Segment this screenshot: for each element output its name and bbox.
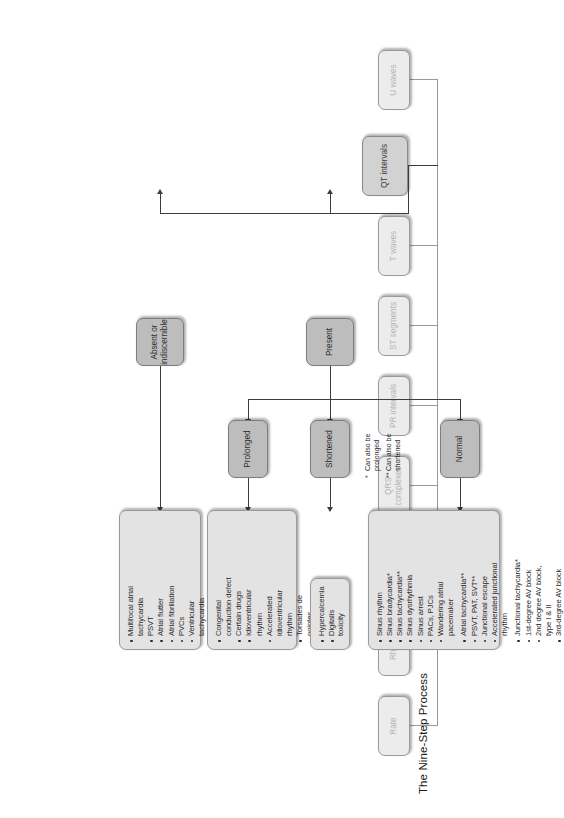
list-item: Atrial fibrillation [168,519,177,643]
qt-split-bar-h [408,165,409,214]
branch-label-normal: Normal [455,436,465,462]
list-item: Junctional tachycardia* [514,519,523,643]
branch-node-prolonged[interactable]: Prolonged [228,420,268,478]
list-item-continuation: rhythm [286,519,295,643]
list-item: Torsades de [296,519,305,643]
list-item: 1st-degree AV block [525,519,534,643]
absent-arrowhead-icon [157,189,163,194]
list-item: Sinus arrest [417,519,426,643]
list-item: 3rd-degree AV block [555,519,564,643]
list-item: Accelerated junctional [491,519,500,643]
list-item: Accelerated [266,519,275,643]
list-item-continuation: type I & II [545,519,554,643]
list-item-continuation: tachycardia [137,519,146,643]
shortened-to-panel-line [330,478,331,508]
footnote-mark: ** [385,473,394,478]
list-item: Sinus rhythm [376,519,385,643]
branch-node-normal[interactable]: Normal [440,420,480,478]
list-shortened: Hypercalcemia Digitalis toxicity [318,587,346,643]
list-item: Sinus dysrhythmia [406,519,415,643]
riser-pr-intervals [410,405,438,406]
connector-to-shortened [330,400,331,420]
step-node-qt-intervals[interactable]: QT intervals [362,136,408,196]
list-panel-absent: Multifocal atrial tachycardia PSVT Atria… [119,510,201,650]
present-arrowhead-icon [327,189,333,194]
list-item-continuation: idioventricular [276,519,285,643]
qt-split-bar-v [160,213,409,214]
step-label-qt-intervals: QT intervals [380,144,390,188]
branch-node-present[interactable]: Present [306,318,354,366]
list-item: Digitalis toxicity [328,587,346,643]
riser-qrs-complexes [410,485,438,486]
footnote-text: Can also be prolonged [364,434,380,471]
footnotes: * Can also be prolonged ** Can also be s… [364,406,406,478]
step-node-u-waves[interactable]: U waves [378,50,410,110]
list-item: PSVT [147,519,156,643]
branch-label-prolonged: Prolonged [243,430,253,467]
footnote-text: Can also be shortened [385,434,401,471]
list-item-continuation: tachycardia [198,519,207,643]
step-label-u-waves: U waves [389,64,399,95]
list-item-continuation: pacemaker [447,519,456,643]
step-node-st-segments[interactable]: ST segments [378,296,410,356]
step-label-rate: Rate [389,717,399,734]
list-item: Congenital [215,519,224,643]
branch-node-absent[interactable]: Absent or indiscernible [136,318,184,366]
step-label-st-segments: ST segments [389,302,399,350]
list-item-continuation: rhythm [256,519,265,643]
riser-st-segments [410,325,438,326]
absent-panel-link [160,366,161,508]
list-item: Idioventricular [245,519,254,643]
list-item: Sinus bradycardia* [386,519,395,643]
list-item: 2nd degree AV block, [535,519,544,643]
page-title: The Nine-Step Process [417,673,429,794]
riser-t-waves [410,245,438,246]
riser-u-waves [410,79,438,80]
list-item-continuation: rhythm [501,519,510,643]
step-node-rate[interactable]: Rate [378,696,410,756]
connector-to-absent [160,192,161,214]
list-item: Wandering atrial [437,519,446,643]
connector-to-present [330,192,331,214]
footnote-single-asterisk: * Can also be prolonged [364,411,381,478]
normal-to-panel-line [460,478,461,508]
list-item-continuation: conduction defect [225,519,234,643]
connector-to-prolonged [248,400,249,420]
list-item: Junctional escape [481,519,490,643]
list-item: Certain drugs [235,519,244,643]
list-panel-shortened: Hypercalcemia Digitalis toxicity [310,578,350,650]
list-item: Hypercalcemia [318,587,327,643]
list-item: PSVT, PAT, SVT** [471,519,480,643]
list-item: Multifocal atrial [127,519,136,643]
list-item: Atrial tachycardia** [460,519,469,643]
list-panel-normal: Sinus rhythm Sinus bradycardia* Sinus ta… [368,510,500,650]
branch-node-shortened[interactable]: Shortened [310,420,350,478]
shortened-panel-arrowhead-icon [327,507,333,512]
step-label-t-waves: T waves [389,231,399,261]
riser-rate [410,725,438,726]
list-item: Sinus tachycardia** [396,519,405,643]
branch-label-absent: Absent or indiscernible [150,319,170,365]
list-panel-prolonged: Congenital conduction defect Certain dru… [207,510,297,650]
present-out-h [330,366,331,400]
footnote-double-asterisk: ** Can also be shortened [385,411,402,478]
list-normal: Sinus rhythm Sinus bradycardia* Sinus ta… [376,519,564,643]
list-item: Atrial flutter [157,519,166,643]
list-item: Ventricular [188,519,197,643]
list-item: PACs, PJCs [427,519,436,643]
branch-label-shortened: Shortened [325,430,335,468]
connector-to-normal [460,400,461,420]
prolonged-to-panel-line [248,478,249,508]
present-split-v [248,399,461,400]
step-node-t-waves[interactable]: T waves [378,216,410,276]
list-item: PVCs [178,519,187,643]
footnote-mark: * [364,475,373,478]
branch-label-present: Present [325,328,335,356]
